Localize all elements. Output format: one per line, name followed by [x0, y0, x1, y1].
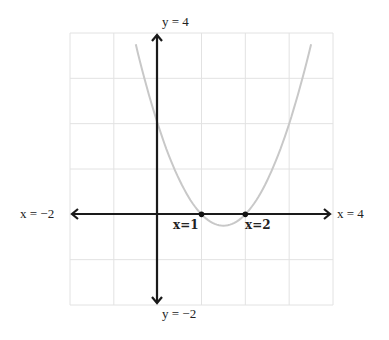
parabola-curve	[136, 44, 311, 225]
grid	[70, 33, 333, 305]
y-min-label: y = −2	[162, 306, 196, 322]
y-max-label: y = 4	[162, 14, 189, 30]
point-label-x2: x=2	[245, 218, 271, 232]
x-max-label: x = 4	[337, 206, 364, 222]
point-label-x1: x=1	[173, 218, 199, 232]
chart-canvas	[0, 0, 389, 340]
x-min-label: x = −2	[20, 206, 54, 222]
